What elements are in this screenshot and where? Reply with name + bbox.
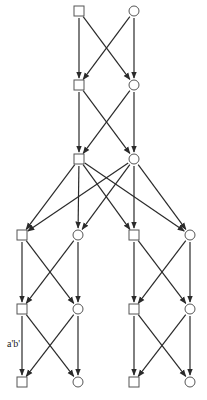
circle-node — [185, 377, 195, 387]
square-node — [129, 377, 139, 387]
circle-node — [129, 154, 139, 164]
square-node — [17, 304, 27, 314]
layered-graph-diagram — [0, 0, 207, 400]
square-node — [74, 154, 84, 164]
edges — [22, 17, 190, 377]
circle-node — [73, 377, 83, 387]
circle-node — [185, 304, 195, 314]
circle-node — [129, 80, 139, 90]
square-node — [129, 230, 139, 240]
square-node — [129, 304, 139, 314]
edge-arrow — [138, 165, 186, 230]
circle-node — [73, 230, 83, 240]
square-node — [17, 230, 27, 240]
square-node — [74, 80, 84, 90]
circle-node — [73, 304, 83, 314]
edge-arrow — [26, 165, 75, 230]
edge-label: a'b' — [7, 339, 20, 349]
circle-node — [129, 6, 139, 16]
circle-node — [185, 230, 195, 240]
square-node — [17, 377, 27, 387]
square-node — [74, 6, 84, 16]
